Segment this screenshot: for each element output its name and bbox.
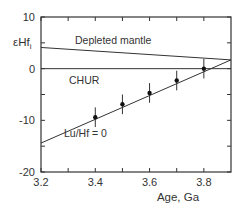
- line-depleted-mantle: [41, 47, 231, 59]
- x-axis-label: Age, Ga: [157, 191, 200, 203]
- data-point: [93, 115, 97, 119]
- x-tick-label: 3.6: [142, 176, 157, 188]
- y-axis-label: εHfi: [13, 36, 32, 51]
- y-axis-label-sub: i: [30, 42, 32, 51]
- y-tick-label: -10: [19, 114, 35, 126]
- data-point: [175, 78, 179, 82]
- annotation-depleted-mantle: Depleted mantle: [75, 34, 152, 46]
- x-tick-label: 3.4: [88, 176, 103, 188]
- annotation-lu-hf: Lu/Hf = 0: [64, 127, 107, 139]
- chart: 3.23.43.63.8100-10-20 Depleted mantle CH…: [0, 0, 245, 214]
- y-axis-label-main: εHf: [13, 36, 30, 48]
- annotation-chur: CHUR: [69, 74, 100, 86]
- x-tick-label: 3.2: [33, 176, 48, 188]
- data-point: [147, 91, 151, 95]
- data-point: [202, 66, 206, 70]
- x-tick-label: 3.8: [196, 176, 211, 188]
- y-tick-label: 10: [23, 11, 35, 23]
- y-tick-label: 0: [29, 63, 35, 75]
- y-tick-label: -20: [19, 166, 35, 178]
- data-point: [120, 102, 124, 106]
